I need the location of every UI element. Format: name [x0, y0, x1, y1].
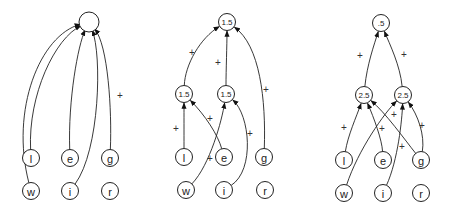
edge-sign-h1-to-top: + — [189, 47, 195, 58]
node-w: w — [336, 185, 353, 202]
edge-e-to-top — [70, 30, 86, 149]
node-l: l — [176, 149, 193, 166]
node-w: w — [178, 182, 195, 199]
node-circle — [79, 12, 99, 32]
node-label: e — [380, 155, 386, 167]
edge-sign-w-to-h2: + — [391, 109, 397, 120]
node-h2: 2.5 — [395, 87, 412, 104]
node-g: g — [413, 152, 430, 169]
node-l: l — [23, 150, 40, 167]
panel-3-nodes: .52.52.5legwir — [336, 15, 430, 202]
node-label: i — [223, 185, 225, 197]
edge-sign-w-to-h2: + — [207, 153, 213, 164]
edge-sign-i-to-h2: + — [247, 128, 253, 139]
node-top: .5 — [373, 15, 390, 32]
node-r: r — [413, 185, 430, 202]
node-label: 1.5 — [178, 90, 190, 99]
edge-sign-h2-to-top: + — [401, 49, 407, 60]
node-g: g — [102, 150, 119, 167]
edge-i-to-h2 — [231, 100, 247, 185]
edge-sign-g-to-top: + — [263, 84, 269, 95]
node-label: r — [419, 188, 423, 200]
node-label: r — [108, 186, 112, 198]
node-label: i — [69, 186, 71, 198]
edge-e-to-h1 — [190, 100, 221, 148]
edge-sign-h1-to-top: + — [357, 50, 363, 61]
node-h1: 2.5 — [356, 87, 373, 104]
node-label: w — [26, 186, 35, 198]
node-label: 2.5 — [358, 91, 370, 100]
edge-h2-to-top — [384, 31, 402, 86]
edge-sign-h2-to-top: + — [215, 57, 221, 68]
node-label: l — [30, 153, 32, 165]
edge-sign-e-to-h1: + — [379, 123, 385, 134]
node-h1: 1.5 — [176, 86, 193, 103]
node-label: e — [221, 152, 227, 164]
network-diagram: +++++++++++++++ legwir1.51.51.5legwir.52… — [0, 0, 452, 214]
node-w: w — [23, 183, 40, 200]
node-h2: 1.5 — [218, 86, 235, 103]
edge-h2-to-top — [226, 31, 227, 86]
node-i: i — [216, 182, 233, 199]
node-label: 1.5 — [221, 18, 233, 27]
node-label: i — [382, 188, 384, 200]
node-top — [79, 12, 99, 32]
node-label: .5 — [378, 19, 385, 28]
node-e: e — [375, 152, 392, 169]
node-label: g — [107, 153, 113, 165]
edge-l-to-top — [30, 26, 80, 150]
node-label: e — [67, 153, 73, 165]
edge-l-to-h1 — [345, 104, 361, 152]
edge-sign-l-to-h1: + — [173, 123, 179, 134]
node-label: w — [339, 188, 348, 200]
node-g: g — [256, 149, 273, 166]
node-label: 1.5 — [220, 90, 232, 99]
node-i: i — [62, 183, 79, 200]
edge-sign-g-to-top: + — [117, 90, 123, 101]
node-e: e — [216, 149, 233, 166]
edge-sign-i-to-h2: + — [399, 141, 405, 152]
node-top: 1.5 — [219, 14, 236, 31]
node-l: l — [336, 152, 353, 169]
edge-sign-e-to-h1: + — [207, 113, 213, 124]
node-label: l — [343, 155, 345, 167]
node-label: g — [261, 152, 267, 164]
edge-h1-to-top — [365, 32, 378, 87]
node-label: w — [181, 185, 190, 197]
node-label: r — [263, 185, 267, 197]
edge-sign-g-to-h2: + — [419, 120, 425, 131]
edge-sign-l-to-h1: + — [341, 122, 347, 133]
node-label: g — [418, 155, 424, 167]
node-r: r — [102, 183, 119, 200]
node-label: l — [183, 152, 185, 164]
node-i: i — [375, 185, 392, 202]
node-e: e — [62, 150, 79, 167]
node-r: r — [257, 182, 274, 199]
nodes-layer: legwir1.51.51.5legwir.52.52.5legwir — [23, 12, 430, 202]
node-label: 2.5 — [397, 91, 409, 100]
